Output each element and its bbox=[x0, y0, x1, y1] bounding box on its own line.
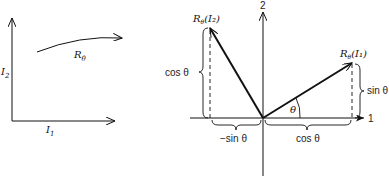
brace-cos-bottom bbox=[265, 120, 351, 130]
x-axis-label: I1 bbox=[45, 124, 54, 138]
brace-cos-left bbox=[199, 28, 208, 118]
vector-1-label: Rθ(I₁) bbox=[339, 48, 367, 60]
vector-r-theta-i1 bbox=[263, 63, 352, 118]
theta-label: θ bbox=[290, 104, 296, 115]
brace-neg-sin bbox=[212, 120, 261, 130]
vector-r-theta-i2 bbox=[210, 28, 263, 118]
y-axis-label: I2 bbox=[0, 66, 10, 80]
right-diagram: 2 1 θ Rθ(I₁) Rθ(I₂) sin θ cos θ −sin θ c… bbox=[165, 0, 389, 176]
sin-theta-right-label: sin θ bbox=[367, 85, 389, 96]
axis-1-label: 1 bbox=[368, 113, 374, 124]
theta-arc bbox=[296, 98, 300, 118]
brace-sin-right bbox=[355, 64, 364, 118]
neg-sin-theta-label: −sin θ bbox=[220, 133, 247, 144]
rotation-diagram: Rθ I2 I1 2 1 θ Rθ(I₁) Rθ(I₂) sin θ cos θ… bbox=[0, 0, 389, 178]
cos-theta-bottom-label: cos θ bbox=[296, 133, 320, 144]
vector-2-label: Rθ(I₂) bbox=[192, 13, 220, 25]
transform-label: Rθ bbox=[73, 49, 87, 63]
axis-2-label: 2 bbox=[260, 0, 266, 11]
left-diagram: Rθ I2 I1 bbox=[0, 18, 122, 138]
cos-theta-left-label: cos θ bbox=[165, 67, 189, 78]
